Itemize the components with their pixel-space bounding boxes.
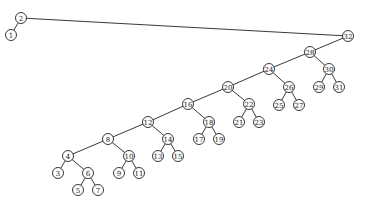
tree-node: 30 — [324, 64, 335, 75]
node-label: 5 — [76, 187, 80, 195]
node-label: 31 — [335, 84, 344, 92]
tree-node: 27 — [294, 100, 305, 111]
tree-node: 25 — [274, 100, 285, 111]
tree-node: 3 — [53, 168, 64, 179]
node-label: 20 — [224, 84, 233, 92]
node-label: 10 — [125, 153, 134, 161]
tree-node: 6 — [83, 168, 94, 179]
node-label: 1 — [9, 32, 13, 40]
tree-node: 7 — [93, 185, 104, 196]
node-label: 25 — [275, 102, 284, 110]
node-label: 26 — [285, 84, 294, 92]
tree-node: 20 — [223, 82, 234, 93]
node-label: 24 — [265, 66, 274, 74]
tree-node: 24 — [264, 64, 275, 75]
tree-edge — [108, 122, 148, 139]
node-label: 29 — [315, 84, 324, 92]
node-label: 18 — [205, 119, 214, 127]
tree-node: 13 — [153, 151, 164, 162]
tree-node: 21 — [234, 117, 245, 128]
tree-node: 29 — [314, 82, 325, 93]
tree-edge — [148, 104, 188, 122]
node-label: 11 — [135, 170, 144, 178]
node-label: 21 — [235, 119, 244, 127]
tree-node: 11 — [134, 168, 145, 179]
tree-node: 8 — [103, 134, 114, 145]
tree-node: 15 — [173, 151, 184, 162]
tree-node: 9 — [114, 168, 125, 179]
tree-node: 19 — [214, 134, 225, 145]
tree-node: 32 — [343, 31, 354, 42]
node-label: 14 — [164, 136, 173, 144]
node-label: 23 — [255, 119, 264, 127]
tree-edge — [228, 69, 269, 87]
tree-edge — [269, 52, 310, 69]
tree-node: 23 — [254, 117, 265, 128]
tree-node: 22 — [244, 99, 255, 110]
tree-edge — [21, 18, 348, 36]
node-label: 12 — [144, 119, 153, 127]
tree-node: 1 — [6, 30, 17, 41]
tree-node: 26 — [284, 82, 295, 93]
node-label: 30 — [325, 66, 334, 74]
tree-diagram: 2132283029312420262527162221231218171981… — [0, 0, 374, 208]
tree-edge — [188, 87, 228, 104]
node-label: 27 — [295, 102, 304, 110]
tree-node: 14 — [163, 134, 174, 145]
tree-node: 16 — [183, 99, 194, 110]
node-label: 9 — [117, 170, 121, 178]
tree-node: 10 — [124, 151, 135, 162]
node-label: 8 — [106, 136, 110, 144]
node-label: 32 — [344, 33, 353, 41]
node-label: 17 — [195, 136, 204, 144]
tree-edge — [68, 139, 108, 156]
node-label: 3 — [56, 170, 60, 178]
node-label: 7 — [96, 187, 100, 195]
tree-node: 4 — [63, 151, 74, 162]
tree-nodes: 2132283029312420262527162221231218171981… — [6, 13, 354, 196]
tree-node: 12 — [143, 117, 154, 128]
node-label: 2 — [19, 15, 23, 23]
node-label: 19 — [215, 136, 224, 144]
tree-node: 18 — [204, 117, 215, 128]
tree-node: 17 — [194, 134, 205, 145]
tree-node: 5 — [73, 185, 84, 196]
node-label: 4 — [66, 153, 71, 161]
node-label: 6 — [86, 170, 91, 178]
tree-node: 28 — [305, 47, 316, 58]
node-label: 22 — [245, 101, 254, 109]
node-label: 13 — [154, 153, 163, 161]
node-label: 16 — [184, 101, 193, 109]
node-label: 28 — [306, 49, 315, 57]
tree-node: 31 — [334, 82, 345, 93]
tree-node: 2 — [16, 13, 27, 24]
tree-edge — [310, 36, 348, 52]
node-label: 15 — [174, 153, 183, 161]
